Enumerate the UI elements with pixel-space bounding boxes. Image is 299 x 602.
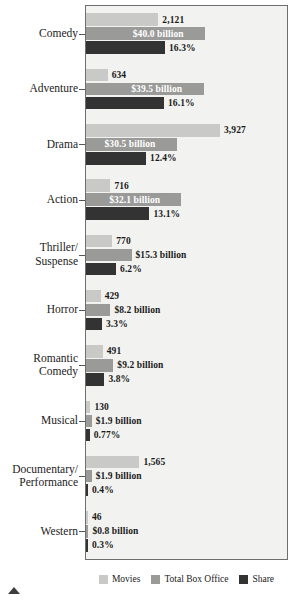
bar-total-box-office — [86, 304, 110, 317]
bar-row: 0.3% — [86, 539, 287, 552]
category-label: RomanticComedy — [0, 352, 78, 379]
legend-label: Share — [252, 574, 274, 584]
bar-movies — [86, 235, 112, 248]
bar-value-label: 0.3% — [92, 540, 114, 550]
bar-row: $15.3 billion — [86, 249, 287, 262]
category-label: Comedy — [0, 27, 78, 41]
bar-row: 0.4% — [86, 484, 287, 497]
bar-value-label: 1,565 — [143, 457, 165, 467]
category-label: Musical — [0, 414, 78, 428]
bar-group: 130$1.9 billion0.77% — [86, 401, 287, 442]
bar-value-label: $8.2 billion — [114, 305, 160, 315]
legend-label: Movies — [112, 574, 141, 584]
bar-row: $9.2 billion — [86, 359, 287, 372]
bar-movies — [86, 511, 88, 524]
chart-legend: MoviesTotal Box OfficeShare — [85, 571, 288, 587]
bar-row: $32.1 billion — [86, 193, 287, 206]
bar-share — [86, 207, 149, 220]
bar-value-label: $15.3 billion — [136, 250, 187, 260]
category-label: Drama — [0, 138, 78, 152]
bar-share — [86, 539, 88, 552]
bar-row: 16.3% — [86, 41, 287, 54]
bar-row: 1,565 — [86, 456, 287, 469]
bar-share — [86, 318, 102, 331]
triangle-marker-icon — [8, 587, 20, 594]
bar-row: $0.8 billion — [86, 525, 287, 538]
bar-value-label: 13.1% — [153, 209, 180, 219]
bar-group: 2,121$40.0 billion16.3% — [86, 13, 287, 54]
bar-share — [86, 373, 104, 386]
category-label: Western — [0, 525, 78, 539]
bar-value-label: 491 — [107, 346, 122, 356]
bar-value-label: $0.8 billion — [92, 526, 138, 536]
bar-row: 491 — [86, 345, 287, 358]
bar-row: 0.77% — [86, 429, 287, 442]
bar-value-label: 3.8% — [108, 374, 130, 384]
plot-area: 2,121$40.0 billion16.3%634$39.5 billion1… — [85, 5, 288, 560]
bar-value-label: 0.4% — [92, 485, 114, 495]
bar-value-label: 429 — [105, 291, 120, 301]
bar-row: 46 — [86, 511, 287, 524]
bar-row: 3.8% — [86, 373, 287, 386]
bar-value-label: $40.0 billion — [133, 29, 241, 39]
bar-row: 12.4% — [86, 152, 287, 165]
bar-share — [86, 97, 164, 110]
genre-bar-chart: ComedyAdventureDramaActionThriller/Suspe… — [0, 0, 299, 602]
bar-row: $40.0 billion — [86, 27, 287, 40]
bar-share — [86, 429, 90, 442]
bar-movies — [86, 290, 101, 303]
bar-row: 3.3% — [86, 318, 287, 331]
legend-item: Movies — [99, 574, 141, 584]
bar-share — [86, 484, 88, 497]
bar-value-label: $1.9 billion — [96, 471, 142, 481]
bar-value-label: 16.3% — [169, 43, 196, 53]
legend-swatch — [239, 575, 248, 584]
category-label: Adventure — [0, 82, 78, 96]
bar-value-label: 46 — [92, 512, 102, 522]
category-label: Thriller/Suspense — [0, 241, 78, 268]
bar-total-box-office — [86, 249, 132, 262]
bar-row: $1.9 billion — [86, 470, 287, 483]
bar-value-label: 770 — [116, 236, 131, 246]
bar-movies — [86, 401, 90, 414]
bar-value-label: $9.2 billion — [117, 360, 163, 370]
bar-group: 491$9.2 billion3.8% — [86, 345, 287, 386]
bar-group: 716$32.1 billion13.1% — [86, 179, 287, 220]
bar-movies — [86, 456, 139, 469]
bar-value-label: $32.1 billion — [109, 195, 264, 205]
bar-total-box-office — [86, 359, 113, 372]
bar-row: 770 — [86, 235, 287, 248]
bar-movies — [86, 179, 110, 192]
category-label: Horror — [0, 303, 78, 317]
category-label: Action — [0, 193, 78, 207]
bar-row: $39.5 billion — [86, 83, 287, 96]
bar-group: 3,927$30.5 billion12.4% — [86, 124, 287, 165]
legend-swatch — [151, 575, 160, 584]
legend-item: Share — [239, 574, 274, 584]
bar-movies — [86, 345, 103, 358]
bar-value-label: 6.2% — [120, 264, 142, 274]
bar-row: $30.5 billion — [86, 138, 287, 151]
bar-group: 1,565$1.9 billion0.4% — [86, 456, 287, 497]
bar-value-label: 3,927 — [224, 125, 246, 135]
bar-value-label: $30.5 billion — [104, 139, 268, 149]
bar-share — [86, 152, 146, 165]
bar-row: 16.1% — [86, 97, 287, 110]
bar-row: 716 — [86, 179, 287, 192]
bar-row: 634 — [86, 69, 287, 82]
bar-value-label: 716 — [114, 181, 129, 191]
bar-total-box-office — [86, 525, 88, 538]
bar-value-label: 2,121 — [162, 15, 184, 25]
bar-group: 634$39.5 billion16.1% — [86, 69, 287, 110]
plot-inner: 2,121$40.0 billion16.3%634$39.5 billion1… — [86, 6, 287, 559]
legend-swatch — [99, 575, 108, 584]
bar-row: 2,121 — [86, 13, 287, 26]
bar-row: 130 — [86, 401, 287, 414]
bar-total-box-office — [86, 470, 92, 483]
bar-total-box-office — [86, 415, 92, 428]
bar-value-label: 130 — [94, 402, 109, 412]
bar-value-label: 3.3% — [106, 319, 128, 329]
bar-row: 3,927 — [86, 124, 287, 137]
bar-movies — [86, 69, 108, 82]
bar-row: $8.2 billion — [86, 304, 287, 317]
